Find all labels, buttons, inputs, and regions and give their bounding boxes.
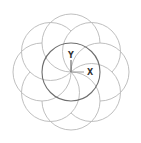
petal-arc[interactable]	[21, 72, 79, 122]
x-axis-label: X	[87, 68, 94, 77]
y-axis-label: Y	[67, 51, 74, 60]
drawing-canvas[interactable]: Y X	[0, 0, 141, 143]
petal-arc[interactable]	[21, 22, 71, 80]
